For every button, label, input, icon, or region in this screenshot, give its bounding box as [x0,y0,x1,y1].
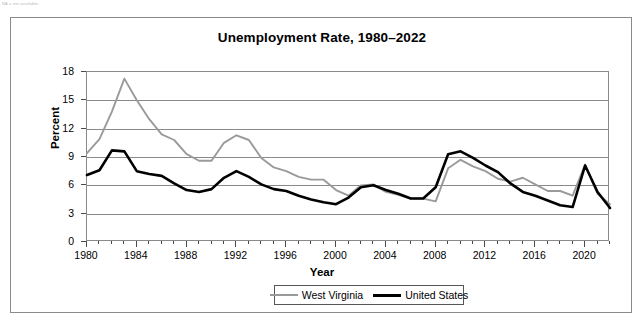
series-line-west-virginia [87,79,610,205]
x-tick-label: 2012 [464,249,504,261]
y-tick-label: 12 [48,122,74,134]
x-axis-label: Year [11,266,633,278]
data-series-layer [87,72,610,242]
x-tick-label: 1988 [166,249,206,261]
legend-item-west-virginia: West Virginia [270,289,363,301]
y-tick-label: 0 [48,235,74,247]
legend-line-icon-west-virginia [270,294,298,296]
y-tick-label: 15 [48,93,74,105]
y-tick-label: 6 [48,178,74,190]
legend-line-icon-united-states [373,294,401,297]
x-tick-label: 2000 [315,249,355,261]
series-line-united-states [87,150,610,208]
y-tick-label: 9 [48,150,74,162]
y-tick-label: 3 [48,207,74,219]
x-tick-label: 1980 [66,249,106,261]
x-tick-label: 1984 [116,249,156,261]
legend-label-west-virginia: West Virginia [302,289,363,301]
screenshot-root: NA = not available. Unemployment Rate, 1… [0,0,642,327]
chart-figure: Unemployment Rate, 1980–2022 Percent 036… [10,17,632,313]
x-tick-label: 1992 [215,249,255,261]
chart-legend: West Virginia United States [274,285,464,305]
footnote-text: NA = not available. [2,1,39,6]
legend-label-united-states: United States [405,289,468,301]
chart-title: Unemployment Rate, 1980–2022 [11,30,633,45]
x-tick-label: 2008 [415,249,455,261]
legend-item-united-states: United States [373,289,468,301]
x-tick-label: 2004 [365,249,405,261]
x-tick-label: 2016 [514,249,554,261]
y-tick-label: 18 [48,65,74,77]
plot-area [86,71,609,241]
x-tick-label: 1996 [265,249,305,261]
x-tick-label: 2020 [564,249,604,261]
